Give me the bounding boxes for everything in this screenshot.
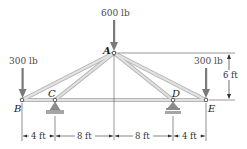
pin-support-C (46, 102, 64, 114)
truss-diagram: 6 ft 600 lb 300 lb 300 lb A B C D E (0, 0, 247, 149)
span-label-DE: 4 ft (182, 131, 197, 141)
node-label-E: E (207, 103, 216, 114)
joint-A (112, 51, 116, 55)
arrow-down-icon (110, 42, 118, 51)
load-label-E: 300 lb (194, 56, 223, 66)
node-label-A: A (102, 45, 111, 56)
height-arrow-down-icon (227, 94, 231, 99)
node-label-C: C (48, 88, 56, 99)
span-label-CA: 8 ft (77, 131, 92, 141)
joint-B (20, 98, 24, 102)
joint-E (204, 98, 208, 102)
load-label-A: 600 lb (101, 8, 130, 18)
span-label-AD: 8 ft (135, 131, 150, 141)
load-label-B: 300 lb (9, 56, 38, 66)
load-A (110, 20, 118, 51)
node-label-B: B (13, 103, 21, 114)
node-label-D: D (171, 88, 180, 99)
span-label-BC: 4 ft (31, 131, 46, 141)
roller-support-D (165, 102, 181, 114)
height-arrow-up-icon (227, 54, 231, 59)
load-E (202, 68, 210, 98)
load-B (19, 68, 27, 98)
height-dim-label: 6 ft (223, 70, 238, 80)
